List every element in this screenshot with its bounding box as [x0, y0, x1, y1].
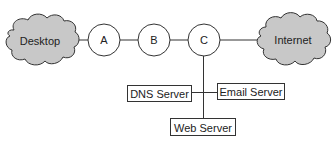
dns-server-box: DNS Server — [128, 86, 192, 102]
node-b: B — [138, 24, 170, 56]
web-server-label: Web Server — [174, 122, 232, 134]
node-b-label: B — [150, 34, 157, 46]
dns-server-label: DNS Server — [130, 88, 189, 100]
desktop-cloud: Desktop — [6, 14, 79, 65]
node-a: A — [88, 24, 120, 56]
internet-cloud: Internet — [257, 13, 330, 65]
email-server-label: Email Server — [220, 86, 283, 98]
network-diagram: Desktop Internet A B C DNS Server Email … — [0, 0, 334, 143]
node-c-label: C — [200, 34, 208, 46]
node-a-label: A — [100, 34, 108, 46]
email-server-box: Email Server — [218, 84, 285, 100]
node-c: C — [188, 24, 220, 56]
web-server-box: Web Server — [171, 119, 236, 136]
internet-label: Internet — [274, 34, 311, 46]
desktop-label: Desktop — [20, 35, 60, 47]
